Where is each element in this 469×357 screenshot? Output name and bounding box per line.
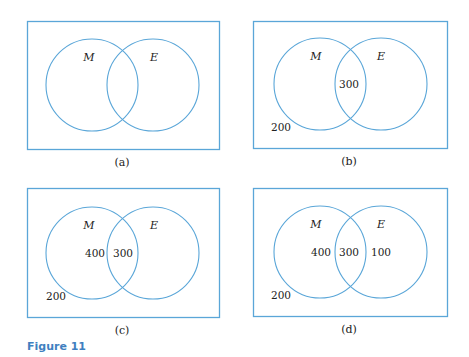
set-e-label: E [149,51,158,64]
set-e-label: E [376,218,385,231]
panel-b: M E 300 200 (b) [254,22,448,169]
region-m-only-value: 400 [311,246,331,258]
region-e-only-value: 100 [371,246,391,258]
panel-c: M E 400 300 200 (c) [28,189,220,338]
region-outside-value: 200 [271,121,291,133]
region-both-value: 300 [113,247,133,259]
panel-caption: (d) [341,323,357,336]
region-outside-value: 200 [46,290,66,302]
panel-caption: (b) [341,155,357,168]
figure-label: Figure 11 [27,340,86,353]
panel-a: M E (a) [28,22,220,170]
set-m-label: M [309,50,322,63]
region-m-only-value: 400 [85,247,105,259]
venn-figure: M E (a) M E 300 200 (b) M E 400 300 200 … [0,0,469,357]
panel-d: M E 400 300 100 200 (d) [254,189,448,337]
set-m-label: M [309,218,322,231]
region-outside-value: 200 [271,289,291,301]
set-m-label: M [82,51,95,64]
region-both-value: 300 [339,246,359,258]
universe-rect [28,22,220,150]
panel-caption: (a) [114,156,129,169]
set-e-label: E [149,219,158,232]
set-m-label: M [82,219,95,232]
region-both-value: 300 [339,78,359,90]
set-e-label: E [376,50,385,63]
panel-caption: (c) [115,324,130,337]
